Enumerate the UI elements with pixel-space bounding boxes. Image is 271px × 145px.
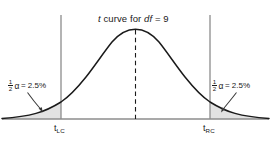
left-tail-shaded-region: [2, 102, 61, 119]
chart-title: t curve for df = 9: [98, 14, 169, 24]
t-distribution-figure: t curve for df = 9 1 2 α = 2.5% 1 2 α = …: [0, 0, 271, 145]
axis-label-left-subscript: LC: [57, 127, 65, 134]
right-alpha-symbol: α: [219, 82, 224, 91]
axis-label-t-lc: tLC: [54, 124, 65, 133]
left-tail-alpha-label: 1 2 α = 2.5%: [8, 79, 46, 93]
right-fraction-numerator: 1: [212, 79, 216, 86]
t-density-curve: [2, 29, 269, 118]
right-fraction-denominator: 2: [212, 86, 216, 93]
title-df-symbol: df: [144, 13, 152, 24]
title-middle-text: curve for: [101, 13, 144, 24]
right-annotation-arrow: [221, 93, 237, 113]
axis-label-right-subscript: RC: [206, 127, 215, 134]
title-df-value: = 9: [152, 13, 169, 24]
left-annotation-arrow: [28, 93, 43, 113]
left-fraction-numerator: 1: [8, 79, 12, 86]
right-alpha-value: = 2.5%: [225, 82, 250, 90]
left-fraction-denominator: 2: [8, 86, 12, 93]
right-tail-shaded-region: [210, 102, 269, 119]
right-one-half-fraction: 1 2: [212, 79, 217, 93]
left-alpha-value: = 2.5%: [21, 82, 46, 90]
axis-label-t-rc: tRC: [203, 124, 215, 133]
right-tail-alpha-label: 1 2 α = 2.5%: [212, 79, 250, 93]
left-alpha-symbol: α: [15, 82, 20, 91]
left-one-half-fraction: 1 2: [8, 79, 13, 93]
